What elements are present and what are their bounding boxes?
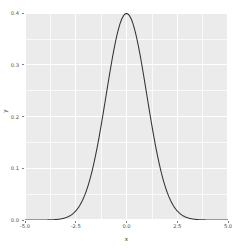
x-axis-tick-label: -2.5 <box>66 223 86 229</box>
y-axis-tick-label: 0.3 <box>2 62 19 68</box>
density-curve-line <box>25 14 228 220</box>
x-axis-tick-mark <box>177 221 178 223</box>
y-axis-title: y <box>1 107 9 115</box>
x-axis-tick-label: 2.5 <box>167 223 187 229</box>
y-axis-tick-mark <box>22 64 24 65</box>
y-axis-tick-label: 0.4 <box>2 10 19 16</box>
y-axis-title-wrap: y <box>1 107 9 119</box>
x-axis-tick-mark <box>228 221 229 223</box>
plot-panel <box>25 13 228 220</box>
x-axis-tick-mark <box>126 221 127 223</box>
x-axis-tick-label: 0.0 <box>117 223 137 229</box>
y-axis-tick-mark <box>22 168 24 169</box>
normal-curve-plot <box>25 13 228 220</box>
y-axis-tick-mark <box>22 116 24 117</box>
x-axis-tick-mark <box>75 221 76 223</box>
x-axis-tick-label: 5.0 <box>218 223 238 229</box>
x-axis-tick-mark <box>25 221 26 223</box>
y-axis-tick-label: 0.1 <box>2 165 19 171</box>
chart-figure: 0.00.10.20.30.4 y -5.0-2.50.02.55.0 x <box>0 0 241 250</box>
x-axis-tick-label: -5.0 <box>15 223 35 229</box>
y-axis-tick-mark <box>22 13 24 14</box>
x-axis-title: x <box>25 235 228 243</box>
